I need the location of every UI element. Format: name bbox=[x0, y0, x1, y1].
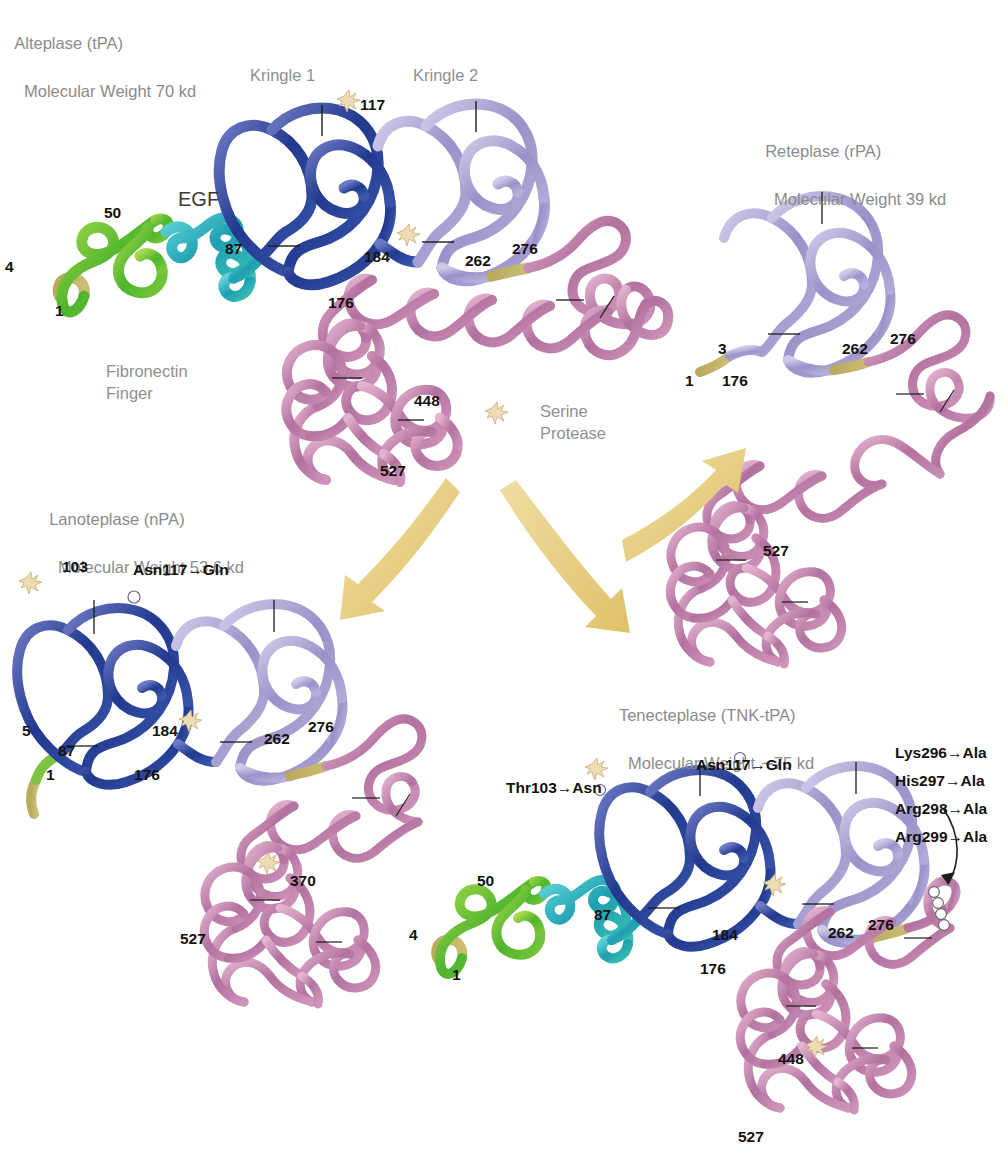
reteplase-residue-276: 276 bbox=[890, 330, 916, 348]
tenecteplase-residue-276: 276 bbox=[868, 916, 894, 934]
figure-canvas: Alteplase (tPA) Molecular Weight 70 kd K… bbox=[0, 0, 1007, 1161]
lanoteplase-title: Lanoteplase (nPA) Molecular Weight 53.6 … bbox=[40, 484, 244, 604]
tenecteplase-mutation-103: Thr103→Asn bbox=[506, 779, 602, 797]
alteplase-title-line1: Alteplase (tPA) bbox=[14, 34, 123, 52]
lanoteplase-residue-87: 87 bbox=[58, 742, 75, 760]
reteplase-residue-527: 527 bbox=[763, 542, 789, 560]
lanoteplase-residue-103: 103 bbox=[62, 558, 88, 576]
reteplase-residue-3: 3 bbox=[718, 340, 727, 358]
tenecteplase-fibronectin-finger bbox=[436, 881, 546, 974]
alteplase-residue-1: 1 bbox=[55, 302, 64, 320]
reteplase-structure bbox=[670, 192, 990, 664]
lanoteplase-residue-5: 5 bbox=[22, 722, 31, 740]
tenecteplase-mutation-117: Asn117→Gln bbox=[696, 756, 792, 774]
alteplase-egf-domain bbox=[166, 218, 262, 296]
fibronectin-label-line1: Fibronectin bbox=[106, 360, 188, 382]
tenecteplase-residue-4: 4 bbox=[409, 926, 418, 944]
serine-protease-label-line1: Serine bbox=[540, 400, 588, 422]
alteplase-residue-262: 262 bbox=[465, 252, 491, 270]
reteplase-residue-1: 1 bbox=[685, 372, 694, 390]
tenecteplase-title: Tenecteplase (TNK-tPA) Molecular Weight … bbox=[610, 680, 814, 800]
serine-protease-label-line2: Protease bbox=[540, 422, 606, 444]
tenecteplase-residue-1: 1 bbox=[452, 966, 461, 984]
reteplase-title: Reteplase (rPA) Molecular Weight 39 kd bbox=[756, 116, 946, 236]
lanoteplase-residue-176: 176 bbox=[134, 766, 160, 784]
kringle2-domain-label: Kringle 2 bbox=[413, 64, 478, 86]
lanoteplase-residue-527: 527 bbox=[180, 930, 206, 948]
lanoteplase-residue-184: 184 bbox=[152, 722, 178, 740]
lanoteplase-residue-262: 262 bbox=[264, 730, 290, 748]
lanoteplase-residue-276: 276 bbox=[308, 718, 334, 736]
egf-domain-label: EGF bbox=[178, 188, 219, 211]
reteplase-title-line2: Molecular Weight 39 kd bbox=[756, 188, 946, 212]
reteplase-title-line1: Reteplase (rPA) bbox=[765, 142, 881, 160]
tenecteplase-mutation-298: Arg298→Ala bbox=[895, 800, 987, 818]
alteplase-fibronectin-finger bbox=[58, 219, 168, 312]
alteplase-residue-4: 4 bbox=[5, 258, 14, 276]
lanoteplase-residue-370: 370 bbox=[290, 872, 316, 890]
tenecteplase-residue-527: 527 bbox=[738, 1128, 764, 1146]
alteplase-residue-448: 448 bbox=[414, 392, 440, 410]
alteplase-residue-117: 117 bbox=[360, 96, 385, 114]
alteplase-residue-50: 50 bbox=[104, 204, 121, 222]
arrow-to-tenecteplase bbox=[500, 480, 630, 633]
glycosylation-icon-103-tnk bbox=[585, 758, 608, 780]
alteplase-title-line2: Molecular Weight 70 kd bbox=[6, 80, 196, 104]
tenecteplase-residue-176: 176 bbox=[700, 960, 726, 978]
lanoteplase-residue-1: 1 bbox=[46, 766, 55, 784]
tenecteplase-residue-184: 184 bbox=[712, 926, 738, 944]
glycosylation-icon-184 bbox=[397, 224, 420, 246]
tenecteplase-residue-50: 50 bbox=[477, 872, 494, 890]
tenecteplase-residue-262: 262 bbox=[828, 924, 854, 942]
tenecteplase-residue-87: 87 bbox=[594, 906, 611, 924]
lanoteplase-structure bbox=[17, 572, 422, 1004]
kringle1-domain-label: Kringle 1 bbox=[250, 64, 315, 86]
alteplase-residue-184: 184 bbox=[364, 248, 390, 266]
tnk-mutation-pointer-arrow bbox=[943, 808, 957, 884]
lanoteplase-title-line1: Lanoteplase (nPA) bbox=[49, 510, 184, 528]
glycosylation-icon-448 bbox=[485, 402, 508, 424]
fibronectin-label-line2: Finger bbox=[106, 382, 153, 404]
reteplase-residue-262: 262 bbox=[842, 340, 868, 358]
tenecteplase-mutation-297: His297→Ala bbox=[895, 772, 985, 790]
tenecteplase-mutation-299: Arg299→Ala bbox=[895, 828, 987, 846]
alteplase-residue-276: 276 bbox=[512, 240, 538, 258]
lanoteplase-mutation-117: Asn117→Gln bbox=[133, 561, 229, 579]
alteplase-residue-87: 87 bbox=[225, 240, 242, 258]
tenecteplase-egf-domain bbox=[544, 880, 640, 958]
tenecteplase-title-line1: Tenecteplase (TNK-tPA) bbox=[619, 706, 796, 724]
lanoteplase-kringle1-domain bbox=[17, 572, 188, 785]
arrow-to-lanoteplase bbox=[340, 478, 460, 620]
reteplase-residue-176: 176 bbox=[722, 372, 748, 390]
alteplase-title: Alteplase (tPA) Molecular Weight 70 kd bbox=[6, 8, 196, 128]
tenecteplase-residue-448: 448 bbox=[778, 1050, 804, 1068]
glycosylation-icon-103 bbox=[19, 572, 42, 594]
alteplase-residue-527: 527 bbox=[380, 462, 406, 480]
alteplase-residue-176: 176 bbox=[328, 294, 354, 312]
tenecteplase-mutation-296: Lys296→Ala bbox=[895, 744, 987, 762]
